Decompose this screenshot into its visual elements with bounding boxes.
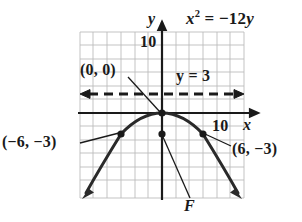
parabola-figure: x2 = −12y y x 10 10 (0, 0) y = 3 (−6, −3… xyxy=(0,0,302,222)
equation-x: x xyxy=(186,9,195,28)
focus-label: F xyxy=(184,198,195,214)
y-axis-tick-10-label: 10 xyxy=(140,34,156,50)
x-axis-label: x xyxy=(243,117,251,133)
latus-left-point-label: (−6, −3) xyxy=(2,134,57,150)
directrix-label: y = 3 xyxy=(176,68,210,84)
focus-leader xyxy=(163,137,190,198)
axes xyxy=(78,22,258,200)
focus-dot xyxy=(158,130,165,137)
y-axis-arrow xyxy=(158,22,165,30)
y-axis-label: y xyxy=(148,11,155,27)
equation-label: x2 = −12y xyxy=(186,10,254,27)
equation-y: y xyxy=(246,9,254,28)
equation-rest: = −12 xyxy=(200,9,246,28)
latus-left-dot xyxy=(117,130,124,137)
x-axis-tick-10-label: 10 xyxy=(212,118,228,134)
vertex-point-label: (0, 0) xyxy=(80,62,116,78)
x-axis-arrow xyxy=(250,109,258,116)
latus-left-leader xyxy=(80,133,119,143)
latus-right-point-label: (6, −3) xyxy=(232,141,277,157)
